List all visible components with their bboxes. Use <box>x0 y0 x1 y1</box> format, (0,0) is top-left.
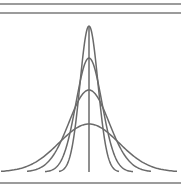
gaussian-curves-diagram <box>0 0 195 187</box>
frame-rules <box>0 4 181 183</box>
